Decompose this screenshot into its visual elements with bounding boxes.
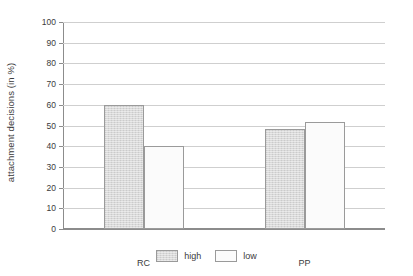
y-axis-title: attachment decisions (in %)	[0, 0, 22, 245]
y-axis-tick-label: 80	[47, 58, 56, 68]
legend-label-low: low	[243, 251, 257, 261]
y-axis-tick-mark	[59, 105, 63, 106]
bar-pp-low	[305, 122, 345, 229]
gridline	[63, 229, 385, 230]
y-axis-tick-label: 40	[47, 141, 56, 151]
y-axis-tick-label: 10	[47, 203, 56, 213]
y-axis-tick-mark	[59, 126, 63, 127]
y-axis-tick-label: 60	[47, 100, 56, 110]
legend-swatch-low	[215, 250, 237, 262]
y-axis-tick-mark	[59, 22, 63, 23]
y-axis-tick-label: 90	[47, 38, 56, 48]
y-axis-tick-label: 70	[47, 79, 56, 89]
y-axis-tick-label: 100	[42, 17, 56, 27]
y-axis-tick-label: 20	[47, 183, 56, 193]
y-axis-tick-label: 30	[47, 162, 56, 172]
legend-swatch-high	[156, 250, 178, 262]
bar-pp-high	[265, 129, 305, 229]
y-axis-tick-label: 0	[51, 224, 56, 234]
bar-rc-high	[104, 105, 144, 229]
bar-chart-figure: attachment decisions (in %) 100908070605…	[0, 0, 413, 276]
y-axis-tick-mark	[59, 63, 63, 64]
legend-label-high: high	[184, 251, 201, 261]
gridline	[63, 43, 385, 44]
gridline	[63, 22, 385, 23]
y-axis-tick-mark	[59, 188, 63, 189]
bar-rc-low	[144, 146, 184, 229]
y-axis-tick-mark	[59, 208, 63, 209]
y-axis-title-text: attachment decisions (in %)	[6, 63, 17, 182]
gridline	[63, 63, 385, 64]
chart-legend: highlow	[0, 250, 413, 262]
legend-entry-high: high	[156, 250, 201, 262]
y-axis-tick-mark	[59, 43, 63, 44]
y-axis-tick-mark	[59, 146, 63, 147]
y-axis-tick-mark	[59, 167, 63, 168]
y-axis-tick-mark	[59, 84, 63, 85]
plot-area: 1009080706050403020100 RCPP	[63, 22, 385, 229]
y-axis-tick-label: 50	[47, 121, 56, 131]
gridline	[63, 84, 385, 85]
legend-entry-low: low	[215, 250, 257, 262]
y-axis-tick-mark	[59, 229, 63, 230]
